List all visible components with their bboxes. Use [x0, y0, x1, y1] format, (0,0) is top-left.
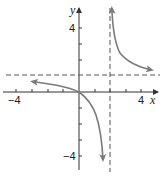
curve-right-branch	[112, 12, 152, 70]
y-tick-label-neg4: −4	[63, 150, 76, 162]
curve-left-branch	[36, 82, 103, 160]
y-axis-label: y	[69, 3, 76, 17]
rational-function-graph: y x −4 4 4 −4	[0, 0, 167, 179]
x-axis-label: x	[149, 93, 156, 107]
x-tick-label-4: 4	[138, 94, 144, 106]
y-tick-label-4: 4	[69, 22, 75, 34]
x-tick-label-neg4: −4	[8, 94, 21, 106]
